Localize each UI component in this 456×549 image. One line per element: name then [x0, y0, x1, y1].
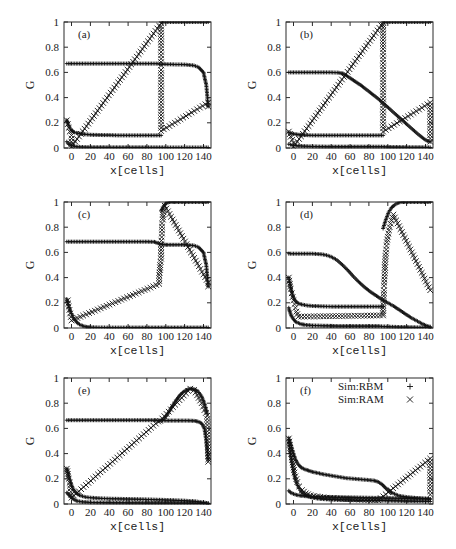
svg-text:140: 140	[417, 330, 434, 342]
svg-text:Sim:RBM: Sim:RBM	[338, 380, 383, 392]
svg-text:120: 120	[398, 330, 415, 342]
panel-f: 02040608010012014000.20.40.60.81x[cells]…	[240, 362, 440, 540]
svg-text:0.2: 0.2	[267, 296, 281, 308]
svg-text:0.8: 0.8	[267, 221, 281, 233]
svg-text:1: 1	[276, 16, 282, 28]
svg-text:0: 0	[291, 506, 297, 518]
svg-text:100: 100	[380, 506, 397, 518]
svg-text:0: 0	[276, 142, 282, 154]
svg-text:(b): (b)	[300, 28, 313, 41]
svg-text:x[cells]: x[cells]	[110, 344, 165, 357]
svg-text:140: 140	[195, 506, 212, 518]
svg-text:80: 80	[141, 330, 153, 342]
svg-text:0.2: 0.2	[45, 296, 59, 308]
panel-b: 02040608010012014000.20.40.60.81x[cells]…	[240, 6, 440, 184]
svg-text:0: 0	[54, 142, 60, 154]
svg-text:40: 40	[326, 506, 338, 518]
svg-text:0.8: 0.8	[45, 221, 59, 233]
panel-d: 02040608010012014000.20.40.60.81x[cells]…	[240, 186, 440, 364]
svg-text:0.6: 0.6	[267, 246, 281, 258]
svg-text:120: 120	[176, 150, 193, 162]
svg-text:40: 40	[104, 506, 116, 518]
svg-text:0: 0	[54, 498, 60, 510]
svg-text:0.2: 0.2	[45, 472, 59, 484]
svg-text:G: G	[23, 436, 37, 445]
svg-text:0.6: 0.6	[45, 422, 59, 434]
svg-text:0.2: 0.2	[45, 116, 59, 128]
svg-text:0.6: 0.6	[267, 422, 281, 434]
svg-text:0.2: 0.2	[267, 116, 281, 128]
svg-text:0: 0	[69, 506, 75, 518]
svg-text:1: 1	[54, 372, 60, 384]
svg-text:120: 120	[398, 506, 415, 518]
svg-text:20: 20	[85, 150, 97, 162]
svg-text:G: G	[23, 260, 37, 269]
svg-text:(d): (d)	[300, 208, 313, 221]
svg-text:80: 80	[363, 150, 375, 162]
svg-text:(a): (a)	[78, 28, 91, 41]
svg-text:0: 0	[276, 322, 282, 334]
svg-text:140: 140	[417, 150, 434, 162]
svg-text:120: 120	[398, 150, 415, 162]
svg-text:80: 80	[141, 150, 153, 162]
svg-text:0.4: 0.4	[267, 271, 281, 283]
svg-text:0.8: 0.8	[267, 41, 281, 53]
svg-text:0.8: 0.8	[45, 41, 59, 53]
svg-text:40: 40	[326, 150, 338, 162]
svg-text:140: 140	[195, 330, 212, 342]
figure-root: 02040608010012014000.20.40.60.81x[cells]…	[0, 0, 456, 549]
svg-text:20: 20	[85, 330, 97, 342]
svg-text:G: G	[245, 436, 259, 445]
svg-text:60: 60	[123, 150, 135, 162]
panel-c: 02040608010012014000.20.40.60.81x[cells]…	[18, 186, 218, 364]
svg-text:60: 60	[345, 506, 357, 518]
svg-text:80: 80	[363, 506, 375, 518]
svg-text:0.4: 0.4	[45, 271, 59, 283]
svg-text:Sim:RAM: Sim:RAM	[338, 393, 384, 405]
svg-text:60: 60	[345, 150, 357, 162]
svg-text:60: 60	[123, 506, 135, 518]
svg-text:40: 40	[104, 330, 116, 342]
svg-text:0: 0	[291, 330, 297, 342]
svg-text:20: 20	[307, 330, 319, 342]
svg-text:0: 0	[54, 322, 60, 334]
svg-text:x[cells]: x[cells]	[332, 344, 387, 357]
svg-text:x[cells]: x[cells]	[332, 164, 387, 177]
svg-text:40: 40	[326, 330, 338, 342]
svg-text:20: 20	[307, 150, 319, 162]
svg-text:0.6: 0.6	[45, 246, 59, 258]
svg-text:140: 140	[195, 150, 212, 162]
svg-text:(c): (c)	[78, 208, 91, 221]
svg-text:100: 100	[158, 330, 175, 342]
svg-text:1: 1	[54, 16, 60, 28]
svg-text:G: G	[23, 80, 37, 89]
svg-text:120: 120	[176, 506, 193, 518]
svg-text:0.6: 0.6	[267, 66, 281, 78]
svg-text:100: 100	[380, 330, 397, 342]
svg-text:20: 20	[85, 506, 97, 518]
svg-text:0.8: 0.8	[267, 397, 281, 409]
svg-text:0.4: 0.4	[267, 447, 281, 459]
svg-text:(e): (e)	[78, 384, 91, 397]
svg-text:0.4: 0.4	[267, 91, 281, 103]
panel-a: 02040608010012014000.20.40.60.81x[cells]…	[18, 6, 218, 184]
svg-text:40: 40	[104, 150, 116, 162]
svg-text:100: 100	[158, 150, 175, 162]
svg-text:0.4: 0.4	[45, 447, 59, 459]
svg-text:100: 100	[158, 506, 175, 518]
svg-text:60: 60	[123, 330, 135, 342]
svg-text:0.4: 0.4	[45, 91, 59, 103]
svg-text:0: 0	[69, 330, 75, 342]
svg-text:x[cells]: x[cells]	[332, 520, 387, 533]
svg-text:0: 0	[291, 150, 297, 162]
svg-text:x[cells]: x[cells]	[110, 520, 165, 533]
svg-text:G: G	[245, 260, 259, 269]
svg-text:60: 60	[345, 330, 357, 342]
svg-text:80: 80	[141, 506, 153, 518]
svg-text:1: 1	[276, 372, 282, 384]
panel-e: 02040608010012014000.20.40.60.81x[cells]…	[18, 362, 218, 540]
svg-text:0.6: 0.6	[45, 66, 59, 78]
svg-text:0: 0	[69, 150, 75, 162]
svg-text:0.2: 0.2	[267, 472, 281, 484]
svg-text:x[cells]: x[cells]	[110, 164, 165, 177]
